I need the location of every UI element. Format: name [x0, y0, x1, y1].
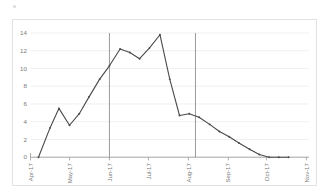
data-point [288, 156, 290, 158]
y-tick-label: 6 [24, 100, 28, 107]
x-tick-label: Sep-17 [225, 163, 231, 183]
line-chart: 02468101214 Apr-17May-17Jun-17Jul-17Aug-… [0, 0, 328, 193]
data-point [188, 113, 190, 115]
data-point [99, 78, 101, 80]
data-point [49, 127, 51, 129]
x-tick-label: Apr-17 [28, 163, 34, 182]
data-point [148, 47, 150, 49]
x-tick-label: Nov-17 [304, 163, 310, 183]
x-tick-label: Oct-17 [264, 163, 270, 182]
x-axis-tick-labels: Apr-17May-17Jun-17Jul-17Aug-17Sep-17Oct-… [28, 163, 310, 184]
y-tick-label: 12 [20, 47, 27, 54]
data-point [38, 156, 40, 158]
data-point [278, 156, 280, 158]
y-tick-label: 4 [24, 118, 28, 125]
x-tick-label: Jun-17 [107, 163, 113, 182]
data-point [209, 123, 211, 125]
y-tick-label: 10 [20, 65, 27, 72]
reference-lines [109, 33, 195, 157]
y-tick-label: 2 [24, 136, 28, 143]
data-point [108, 65, 110, 67]
y-axis-tick-labels: 02468101214 [20, 29, 27, 160]
data-point [268, 156, 270, 158]
data-point [238, 142, 240, 144]
data-point [228, 136, 230, 138]
data-point [249, 148, 251, 150]
y-tick-label: 0 [24, 153, 28, 160]
x-tick-label: May-17 [67, 163, 73, 184]
data-point [258, 154, 260, 156]
data-point [169, 78, 171, 80]
data-point [129, 52, 131, 54]
y-tick-label: 14 [20, 29, 27, 36]
data-point [119, 48, 121, 50]
data-point [179, 115, 181, 117]
data-point [78, 113, 80, 115]
data-series-line [38, 35, 288, 157]
data-point [198, 116, 200, 118]
gridlines [31, 33, 310, 139]
data-point [58, 107, 60, 109]
x-tick-label: Jul-17 [146, 163, 152, 180]
data-point [69, 124, 71, 126]
data-point [88, 96, 90, 98]
data-point [139, 58, 141, 60]
x-axis-tick-marks [31, 157, 307, 160]
data-point [218, 131, 220, 133]
data-point [159, 34, 161, 36]
x-tick-label: Aug-17 [186, 163, 192, 183]
y-tick-label: 8 [24, 82, 28, 89]
